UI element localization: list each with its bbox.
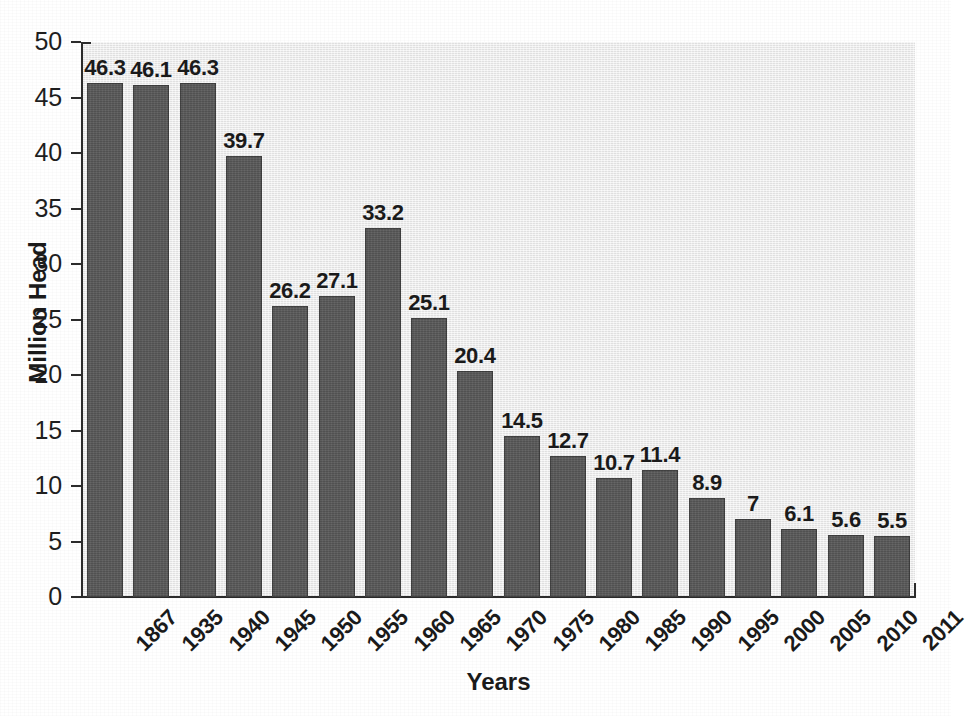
x-axis-tick-label: 2005	[826, 606, 875, 655]
x-axis-tick-label: 1975	[549, 606, 598, 655]
bar	[828, 535, 864, 597]
bar-value-label: 39.7	[214, 130, 274, 152]
x-axis-tick-label: 1970	[502, 606, 551, 655]
bar-value-label: 5.5	[862, 510, 922, 532]
x-axis-tick-label: 2000	[780, 606, 829, 655]
x-axis-tick-label: 1945	[271, 606, 320, 655]
x-axis-tick-label: 1955	[363, 606, 412, 655]
x-axis-tick-label: 1940	[225, 606, 274, 655]
x-axis-tick-label: 1960	[410, 606, 459, 655]
y-axis-tick	[71, 152, 81, 154]
x-axis-tick-label: 1995	[734, 606, 783, 655]
x-axis-tick-label: 1950	[317, 606, 366, 655]
bar-value-label: 14.5	[492, 410, 552, 432]
y-axis-tick	[71, 485, 81, 487]
x-axis-tick-label: 1980	[595, 606, 644, 655]
y-axis-tick	[71, 541, 81, 543]
bar	[133, 85, 169, 597]
bar	[781, 529, 817, 597]
x-axis-tick-label: 1935	[178, 606, 227, 655]
bar	[457, 371, 493, 597]
x-axis-title: Years	[82, 670, 915, 694]
y-axis-tick	[71, 319, 81, 321]
y-axis-tick-label: 5	[14, 529, 62, 554]
y-axis-tick-label: 50	[14, 29, 62, 54]
y-axis-tick	[71, 430, 81, 432]
y-axis-tick-label: 0	[14, 584, 62, 609]
x-axis-right-cap	[914, 583, 916, 597]
y-axis-title: Million Head	[26, 212, 50, 412]
bar	[319, 296, 355, 597]
y-axis-tick	[71, 596, 81, 598]
bar	[550, 456, 586, 597]
bar	[689, 498, 725, 597]
x-axis-tick-label: 1867	[132, 606, 181, 655]
y-axis-tick-label: 15	[14, 418, 62, 443]
x-axis-tick-label: 2011	[919, 606, 967, 654]
bar-value-label: 20.4	[445, 345, 505, 367]
bar	[365, 228, 401, 597]
y-axis-tick-label: 45	[14, 85, 62, 110]
bar	[87, 83, 123, 597]
bar	[411, 318, 447, 597]
x-axis-tick-label: 2010	[873, 606, 922, 655]
bar-value-label: 25.1	[399, 292, 459, 314]
y-axis-spine	[81, 42, 83, 598]
y-axis-tick	[71, 97, 81, 99]
y-axis-tick	[71, 208, 81, 210]
y-axis-tick-label: 40	[14, 140, 62, 165]
bar-value-label: 27.1	[307, 270, 367, 292]
bar	[874, 536, 910, 597]
bar	[735, 519, 771, 597]
bar	[180, 83, 216, 597]
x-axis-tick-label: 1990	[687, 606, 736, 655]
bar-value-label: 11.4	[630, 444, 690, 466]
bar	[272, 306, 308, 597]
y-axis-tick-label: 10	[14, 473, 62, 498]
bar	[226, 156, 262, 597]
bar	[504, 436, 540, 597]
x-axis-tick-label: 1965	[456, 606, 505, 655]
bar	[642, 470, 678, 597]
bar	[596, 478, 632, 597]
bar-value-label: 8.9	[677, 472, 737, 494]
y-axis-tick	[71, 263, 81, 265]
bar-value-label: 33.2	[353, 202, 413, 224]
bar-value-label: 12.7	[538, 430, 598, 452]
x-axis-tick-label: 1985	[641, 606, 690, 655]
bar-value-label: 46.3	[168, 57, 228, 79]
y-axis-top-cap	[81, 42, 91, 44]
y-axis-tick	[71, 41, 81, 43]
y-axis-tick	[71, 374, 81, 376]
